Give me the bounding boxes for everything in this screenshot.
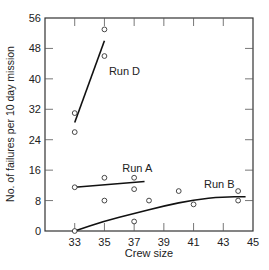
run-d-data-point: [102, 27, 107, 32]
y-tick-label: 16: [29, 164, 41, 176]
run-b-data-point: [72, 229, 77, 234]
run-d-data-point: [102, 54, 107, 59]
run-d-fit-line: [75, 41, 105, 123]
x-axis-ticks: 33353739414345: [69, 18, 260, 248]
y-tick-label: 8: [35, 195, 41, 207]
run-b-data-point: [236, 198, 241, 203]
run-a-data-point: [102, 175, 107, 180]
y-tick-label: 48: [29, 42, 41, 54]
fit-lines: [75, 41, 246, 231]
run-b-fit-curve: [75, 197, 246, 231]
run-b-data-point: [176, 189, 181, 194]
x-tick-label: 45: [247, 236, 259, 248]
run-b-data-point: [236, 189, 241, 194]
y-tick-label: 56: [29, 12, 41, 24]
run-b-label: Run B: [204, 178, 235, 190]
run-a-label: Run A: [122, 162, 153, 174]
x-tick-label: 35: [98, 236, 110, 248]
run-b-data-point: [147, 198, 152, 203]
run-a-data-point: [72, 185, 77, 190]
run-d-data-point: [72, 130, 77, 135]
run-d-label: Run D: [109, 65, 140, 77]
series-labels: Run DRun ARun B: [109, 65, 235, 190]
x-tick-label: 41: [187, 236, 199, 248]
y-tick-label: 32: [29, 103, 41, 115]
run-b-data-point: [132, 219, 137, 224]
y-axis-label: No. of failures per 10 day mission: [4, 46, 16, 202]
y-tick-label: 24: [29, 134, 41, 146]
run-a-data-point: [132, 175, 137, 180]
x-axis-label: Crew size: [125, 247, 173, 259]
run-b-data-point: [102, 198, 107, 203]
x-tick-label: 33: [69, 236, 81, 248]
x-tick-label: 43: [217, 236, 229, 248]
y-tick-label: 40: [29, 73, 41, 85]
failures-vs-crew-size-chart: 08162432404856 33353739414345 Run DRun A…: [0, 0, 269, 270]
run-a-data-point: [132, 187, 137, 192]
run-d-data-point: [72, 111, 77, 116]
run-b-data-point: [191, 202, 196, 207]
y-tick-label: 0: [35, 225, 41, 237]
y-axis-ticks: 08162432404856: [29, 12, 253, 237]
